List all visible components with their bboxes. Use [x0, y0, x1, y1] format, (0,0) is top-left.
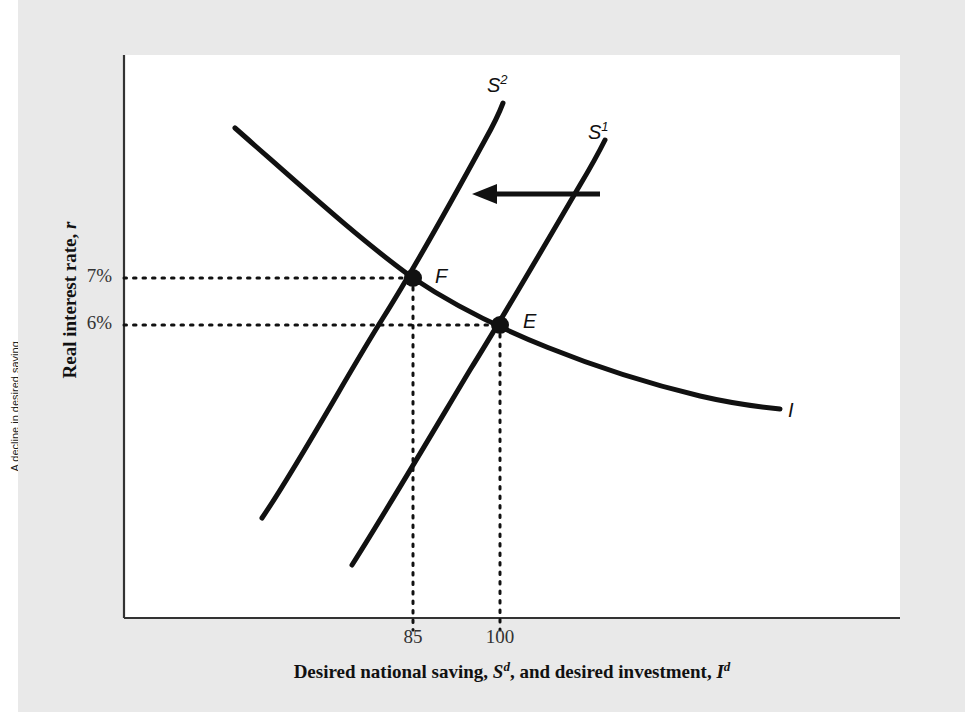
x-axis-title-variable-s: S	[493, 661, 504, 682]
equilibrium-point-f-marker	[404, 269, 422, 287]
x-axis-title-part2: , and desired investment,	[510, 661, 717, 682]
curve-label-i: I	[788, 399, 794, 421]
curve-label-s1-superscript: 1	[601, 119, 608, 134]
y-axis-title: Real interest rate, r	[59, 221, 80, 378]
y-tick-label-6pct: 6%	[87, 312, 113, 333]
equilibrium-point-e-marker	[491, 316, 509, 334]
x-axis-title-part1: Desired national saving,	[294, 661, 493, 682]
y-tick-label-7pct: 7%	[87, 265, 113, 286]
figure-container: A decline in desired saving F E S2	[0, 0, 965, 712]
curve-label-s2-base: S	[487, 74, 501, 96]
x-axis-title-superscript-d2: d	[724, 659, 731, 674]
x-axis-title: Desired national saving, Sd, and desired…	[294, 659, 731, 682]
point-label-f: F	[435, 265, 449, 287]
point-label-e: E	[523, 310, 537, 332]
curve-label-s1-base: S	[588, 121, 602, 143]
x-tick-label-85: 85	[404, 626, 423, 647]
y-axis-title-variable: r	[59, 221, 80, 229]
economics-chart: F E S2 S1 I 7% 6% 85 100 Real interest r…	[0, 0, 965, 712]
plot-area	[124, 55, 900, 618]
curve-label-s2-superscript: 2	[499, 72, 508, 87]
x-tick-label-100: 100	[486, 626, 515, 647]
y-axis-title-text: Real interest rate,	[59, 229, 80, 378]
